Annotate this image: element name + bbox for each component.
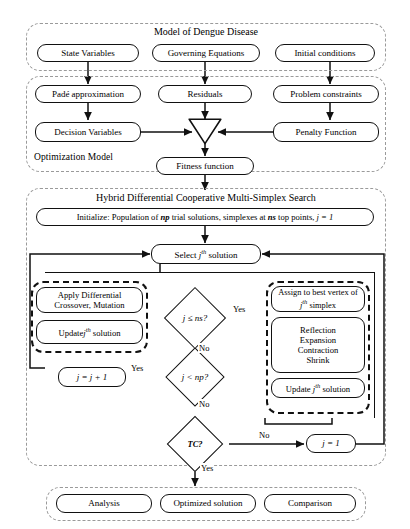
group-model-title: Model of Dengue Disease (26, 26, 386, 37)
box-residuals[interactable]: Residuals (158, 85, 252, 103)
box-pade-approximation-label: Padé approximation (52, 89, 124, 100)
box-decision-variables[interactable]: Decision Variables (35, 122, 141, 142)
decision-j-le-ns-label: j ≤ ns? (163, 296, 227, 340)
box-comparison-label: Comparison (288, 498, 332, 509)
box-state-variables-label: State Variables (61, 48, 115, 59)
simplex-op-expansion: Expansion (300, 335, 336, 345)
assign-line1: Assign to best vertex of (278, 288, 358, 298)
decision-j-lt-np[interactable]: j < np? (163, 356, 227, 398)
simplex-op-shrink: Shrink (307, 355, 330, 365)
group-optimization-title: Optimization Model (34, 152, 113, 162)
update-left-pre: Update (58, 328, 83, 338)
update-left-post: solution (91, 328, 121, 338)
init-assign: j = 1 (317, 212, 334, 222)
box-state-variables[interactable]: State Variables (37, 44, 139, 62)
box-analysis-label: Analysis (88, 498, 120, 509)
box-governing-equations[interactable]: Governing Equations (152, 44, 260, 62)
box-increment-j[interactable]: j = j + 1 (58, 367, 126, 387)
box-update-jth-solution-right[interactable]: Update jth solution (271, 378, 365, 398)
box-fitness-function-label: Fitness function (176, 161, 234, 172)
update-right-post: solution (320, 384, 350, 394)
flowchart-canvas: Model of Dengue Disease State Variables … (0, 0, 410, 529)
update-left-label: Updatejth solution (58, 326, 120, 338)
box-problem-constraints[interactable]: Problem constraints (273, 85, 379, 103)
select-pre: Select (174, 250, 198, 260)
edge-label-yes-3: Yes (200, 463, 214, 473)
simplex-op-reflection: Reflection (300, 325, 336, 335)
decision-j-le-ns[interactable]: j ≤ ns? (163, 296, 227, 340)
update-right-pre: Update (286, 384, 313, 394)
box-select-label: Select jth solution (174, 248, 237, 261)
apply-line2: Crossover, Mutation (54, 300, 124, 310)
box-fitness-function[interactable]: Fitness function (156, 157, 254, 175)
box-apply-differential-crossover-mutation[interactable]: Apply Differential Crossover, Mutation (36, 287, 143, 313)
box-select-jth-solution[interactable]: Select jth solution (151, 244, 261, 264)
box-optimized-solution[interactable]: Optimized solution (160, 494, 256, 513)
box-penalty-function-label: Penalty Function (295, 127, 356, 138)
box-initialize-label: Initialize: Population of np trial solut… (77, 212, 334, 222)
assign-post: simplex (307, 300, 336, 309)
box-simplex-operations[interactable]: Reflection Expansion Contraction Shrink (271, 317, 365, 373)
box-analysis[interactable]: Analysis (56, 494, 152, 513)
init-suffix: top points, (276, 212, 317, 222)
decision-j-lt-np-label: j < np? (163, 356, 227, 398)
box-assign-to-best-vertex[interactable]: Assign to best vertex of jth simplex (271, 286, 365, 312)
group-hybrid-title: Hybrid Differential Cooperative Multi-Si… (26, 192, 386, 203)
decision-termination-criteria[interactable]: TC? (163, 424, 227, 464)
box-update-jth-solution-left[interactable]: Updatejth solution (36, 320, 143, 344)
box-problem-constraints-label: Problem constraints (290, 89, 362, 100)
box-decision-variables-label: Decision Variables (54, 127, 122, 138)
select-post: solution (206, 250, 237, 260)
box-reset-j-label: j = 1 (322, 438, 340, 449)
box-comparison[interactable]: Comparison (264, 494, 356, 513)
box-governing-equations-label: Governing Equations (168, 48, 245, 59)
edge-label-yes-2: Yes (130, 363, 144, 373)
box-initial-conditions-label: Initial conditions (294, 48, 355, 59)
init-np: np (160, 212, 169, 222)
init-prefix: Initialize: Population of (77, 212, 161, 222)
assign-line2: jth simplex (300, 298, 336, 311)
box-residuals-label: Residuals (188, 89, 223, 100)
init-mid: trial solutions, simplexes at (170, 212, 268, 222)
edge-label-yes-1: Yes (232, 304, 246, 314)
summation-triangle-icon (188, 118, 222, 145)
update-right-label: Update jth solution (286, 382, 350, 394)
init-ns: ns (268, 212, 276, 222)
box-increment-j-label: j = j + 1 (77, 372, 108, 383)
box-optimized-solution-label: Optimized solution (173, 498, 242, 509)
box-penalty-function[interactable]: Penalty Function (273, 122, 379, 142)
edge-label-no-1: No (198, 343, 210, 353)
box-initial-conditions[interactable]: Initial conditions (275, 44, 375, 62)
box-reset-j[interactable]: j = 1 (306, 434, 356, 453)
edge-label-no-2: No (198, 399, 210, 409)
box-initialize-population[interactable]: Initialize: Population of np trial solut… (36, 208, 374, 226)
box-pade-approximation[interactable]: Padé approximation (35, 85, 141, 103)
decision-tc-label: TC? (163, 424, 227, 464)
apply-line1: Apply Differential (58, 290, 122, 300)
simplex-op-contraction: Contraction (298, 345, 339, 355)
edge-label-no-3: No (258, 430, 270, 440)
